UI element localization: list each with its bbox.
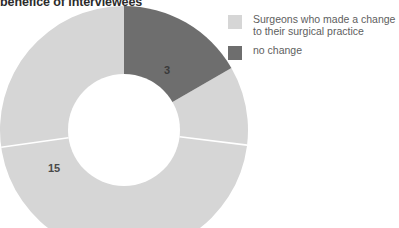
pie-label-no-change: 3	[164, 64, 170, 76]
donut-chart: 3 15	[0, 0, 250, 228]
donut-hole	[68, 74, 180, 186]
pie-label-change: 15	[48, 162, 60, 174]
legend-item-change: Surgeons who made a change to their surg…	[228, 14, 399, 37]
legend-swatch-no-change	[228, 46, 242, 60]
legend-swatch-change	[228, 15, 242, 29]
chart-legend: Surgeons who made a change to their surg…	[228, 14, 399, 68]
legend-label-change: Surgeons who made a change to their surg…	[253, 14, 395, 37]
donut-chart-svg: 3 15	[0, 0, 250, 228]
legend-item-no-change: no change	[228, 45, 399, 60]
legend-label-no-change: no change	[253, 45, 302, 57]
